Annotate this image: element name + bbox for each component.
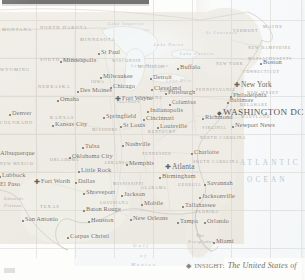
city-label-miami: Miami xyxy=(216,238,234,244)
fade-overlay xyxy=(0,0,305,280)
atlantic-ocean-wash xyxy=(196,0,305,258)
state-label-iowa: IOWA xyxy=(91,81,105,85)
state-label-new-hampshire: NEW HAMPSHIRE xyxy=(248,47,291,51)
graticule xyxy=(0,0,305,280)
physical-label-the: The xyxy=(196,234,204,238)
city-marker-buffalo xyxy=(177,68,179,70)
city-marker-minneapolis xyxy=(60,61,62,63)
landmass-texas xyxy=(17,165,133,246)
state-label-georgia: GEORGIA xyxy=(178,184,201,188)
city-marker-jackson xyxy=(121,195,123,197)
city-marker-cleveland xyxy=(151,89,153,91)
physical-label-edwards: Edwards xyxy=(4,197,24,201)
city-label-cincinnati: Cincinnati xyxy=(146,115,174,121)
city-label-birmingham: Birmingham xyxy=(162,173,196,179)
city-label-st-paul: St Paul xyxy=(101,49,120,55)
city-label-atlanta: Atlanta xyxy=(172,163,195,170)
state-label-michigan: MICHIGAN xyxy=(138,66,165,70)
city-label-mobile: Mobile xyxy=(144,200,163,206)
state-label-illinois: ILLINOIS xyxy=(117,101,140,105)
state-label-pennsylvania: PENNSYLVANIA xyxy=(196,89,235,93)
right-edge-shadow xyxy=(302,0,305,280)
caption-text: The United States of xyxy=(228,261,297,270)
city-label-cleveland: Cleveland xyxy=(154,85,181,91)
state-label-north-dakota: NORTH DAKOTA xyxy=(40,26,88,31)
city-label-houston: Houston xyxy=(91,217,114,223)
corner-mark xyxy=(4,268,15,273)
city-marker-kansas-city xyxy=(52,125,54,127)
city-marker-louisville xyxy=(157,127,159,129)
city-marker-oklahoma-city xyxy=(69,157,71,159)
city-marker-mobile xyxy=(141,204,143,206)
gulf-of-mexico-wash xyxy=(74,210,224,266)
state-label-oklahoma: OKLAHOMA xyxy=(50,159,80,163)
city-marker-jacksonville xyxy=(199,197,201,199)
city-label-tulsa: Tulsa xyxy=(85,143,100,149)
water-label-lake-ontario: Lake Ontario xyxy=(180,52,215,56)
state-label-indiana: INDIANA xyxy=(140,97,163,101)
city-label-san-antonio: San Antonio xyxy=(25,216,58,222)
city-label-des-moines: Des Moines xyxy=(80,87,112,93)
map-page: ATLANTICOCEANGulfofMexicoLake SuperiorLa… xyxy=(0,0,305,280)
city-label-savannah: Savannah xyxy=(207,180,233,186)
city-label-chicago: Chicago xyxy=(113,83,135,89)
landmass-southeast xyxy=(150,130,236,216)
city-label-charlotte: Charlotte xyxy=(194,149,219,155)
city-marker-fort-worth: ✚ xyxy=(34,179,40,186)
city-label-pittsburgh: Pittsburgh xyxy=(168,89,195,95)
city-label-louisville: Louisville xyxy=(160,123,187,129)
state-label-massachusetts: MASSACHUSETTS xyxy=(248,58,292,62)
water-label-lake-erie: Lake Erie xyxy=(166,79,192,83)
city-label-nashville: Nashville xyxy=(125,141,151,147)
city-label-columbus: Columbus xyxy=(172,100,196,106)
state-label-texas: TEXAS xyxy=(40,205,60,210)
city-label-indianapolis: Indianapolis xyxy=(150,107,183,113)
state-label-missouri: MISSOURI xyxy=(92,129,117,133)
city-label-memphis: Memphis xyxy=(129,160,154,166)
diamond-icon: ◆ xyxy=(186,263,191,270)
physical-label-plateau: Plateau xyxy=(4,204,22,208)
state-label-kansas: KANSAS xyxy=(50,116,74,121)
city-marker-cincinnati xyxy=(143,119,145,121)
landmass-florida xyxy=(182,186,224,260)
city-marker-san-antonio xyxy=(22,220,24,222)
city-marker-st-louis xyxy=(120,126,122,128)
state-label-wyoming: WYOMING xyxy=(0,68,30,73)
city-label-corpus-christi: Corpus Christi xyxy=(70,233,109,239)
city-marker-birmingham xyxy=(159,177,161,179)
state-label-maine: MAINE xyxy=(263,25,283,30)
city-label-springfield: Springfield xyxy=(106,113,136,119)
caption-key: Insight: xyxy=(194,262,224,269)
water-label-lake-superior: Lake Superior xyxy=(108,22,145,26)
city-label-little-rock: Little Rock xyxy=(81,167,111,173)
city-marker-detroit xyxy=(150,78,152,80)
city-label-newport-news: Newport News xyxy=(235,122,275,128)
city-marker-milwaukee xyxy=(100,77,102,79)
city-label-st-louis: St Louis xyxy=(123,122,145,128)
city-marker-newport-news xyxy=(232,126,234,128)
state-label-wisconsin: WISCONSIN xyxy=(112,60,141,64)
city-label-fort-wayne: Fort Wayne xyxy=(122,95,153,101)
city-marker-baton-rouge xyxy=(83,210,85,212)
state-label-ohio: OHIO xyxy=(160,90,173,94)
city-marker-tampa xyxy=(177,222,179,224)
city-marker-denver xyxy=(9,114,11,116)
city-label-baltimore: Baltimore xyxy=(230,98,253,104)
city-marker-tallahassee xyxy=(182,206,184,208)
city-marker-orlando xyxy=(204,222,206,224)
state-label-mississippi: MISSISSIPPI xyxy=(113,183,144,187)
city-label-buffalo: Buffalo xyxy=(180,64,200,70)
water-label-st-lawrence: St Lawrence xyxy=(206,31,238,35)
state-label-connecticut: CONNECTICUT xyxy=(243,71,280,75)
city-label-lubbock: Lubbock xyxy=(2,172,26,178)
city-label-detroit: Detroit xyxy=(153,74,172,80)
city-label-richmond: Richmond xyxy=(205,114,233,120)
state-label-arkansas: ARKANSAS xyxy=(104,162,132,166)
city-marker-atlanta: ✚ xyxy=(165,164,171,171)
city-marker-richmond xyxy=(202,118,204,120)
city-marker-st-paul xyxy=(98,53,100,55)
city-marker-springfield xyxy=(103,117,105,119)
landmass-northeast xyxy=(178,0,270,87)
city-label-washington-dc: WASHINGTON DC xyxy=(223,108,304,117)
city-marker-philadelphia xyxy=(230,96,232,98)
